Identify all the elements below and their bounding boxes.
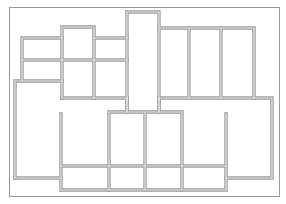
- wall-core-tall-column: [127, 12, 159, 112]
- wall-core-left-wing-top: [15, 81, 62, 178]
- wall-col-a: [62, 27, 94, 98]
- wall-core-right-rooms-top: [159, 28, 254, 98]
- wall-core-col-a: [62, 27, 94, 98]
- floor-plan-svg: [0, 0, 286, 204]
- walls-outer-stroke: [15, 12, 272, 190]
- wall-right-rooms-top: [159, 28, 254, 98]
- wall-left-wing-top: [15, 81, 62, 178]
- wall-tall-column: [127, 12, 159, 112]
- floor-plan-diagram: [0, 0, 286, 204]
